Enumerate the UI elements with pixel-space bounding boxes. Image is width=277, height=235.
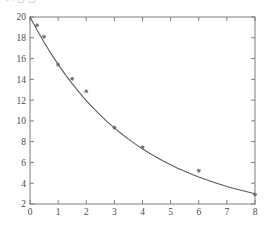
axis-tickmarks: [30, 17, 255, 204]
chart-plot: 2468101214161820 012345678: [0, 0, 277, 235]
y-tick-label: 18: [17, 33, 27, 43]
x-tick-label: 3: [112, 207, 117, 217]
x-axis-tick-labels: 012345678: [28, 207, 258, 217]
y-tick-label: 2: [21, 199, 26, 209]
y-tick-label: 4: [21, 179, 26, 189]
x-tick-label: 7: [225, 207, 230, 217]
data-point: [197, 169, 201, 173]
data-point: [112, 126, 116, 130]
fitted-curve: [30, 17, 255, 194]
y-tick-label: 14: [17, 75, 27, 85]
plot-frame: [30, 17, 255, 204]
x-tick-label: 1: [56, 207, 61, 217]
data-point: [84, 89, 88, 93]
data-point: [70, 77, 74, 81]
y-tick-label: 6: [21, 158, 26, 168]
y-tick-label: 12: [17, 96, 27, 106]
x-tick-label: 0: [28, 207, 33, 217]
x-tick-label: 5: [168, 207, 173, 217]
y-tick-label: 20: [17, 12, 27, 22]
data-point: [253, 193, 257, 197]
x-tick-label: 4: [140, 207, 145, 217]
x-tick-label: 8: [253, 207, 258, 217]
data-point: [141, 145, 145, 149]
data-point: [42, 35, 46, 39]
y-axis-tick-labels: 2468101214161820: [17, 12, 27, 209]
y-tick-label: 8: [21, 137, 26, 147]
y-tick-label: 16: [17, 54, 27, 64]
figure-container: · · ▭ ▭ 2468101214161820 012345678: [0, 0, 277, 235]
x-tick-label: 2: [84, 207, 89, 217]
y-tick-label: 10: [17, 116, 27, 126]
data-point-markers: [35, 23, 257, 196]
x-tick-label: 6: [196, 207, 201, 217]
